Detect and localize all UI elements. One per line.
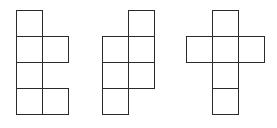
net-square [102, 36, 129, 63]
net-square [42, 88, 69, 115]
net-square [102, 88, 129, 115]
net-square [16, 88, 43, 115]
net-square [186, 36, 213, 63]
net-square [128, 62, 155, 89]
net-square [212, 62, 239, 89]
net-square [16, 62, 43, 89]
net-square [238, 36, 265, 63]
net-square [212, 10, 239, 37]
net-square [212, 88, 239, 115]
net-square [128, 36, 155, 63]
cube-nets-diagram [0, 0, 277, 128]
net-square [212, 36, 239, 63]
net-square [128, 10, 155, 37]
net-square [16, 10, 43, 37]
net-square [16, 36, 43, 63]
net-square [42, 36, 69, 63]
net-square [102, 62, 129, 89]
